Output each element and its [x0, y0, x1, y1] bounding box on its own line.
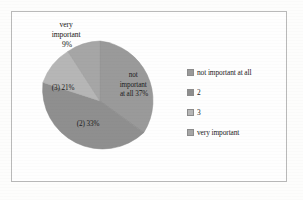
legend-item-very-important[interactable]: very important — [187, 124, 287, 140]
legend-label: 3 — [197, 108, 201, 117]
screenshot-root: not important at all 37% (2) 33% (3) 21%… — [0, 0, 303, 200]
chart-legend: not important at all 2 3 very important — [187, 64, 287, 144]
slice-label-2: (2) 33% — [77, 120, 100, 128]
chart-frame: not important at all 37% (2) 33% (3) 21%… — [11, 11, 287, 182]
legend-item-3[interactable]: 3 — [187, 104, 287, 120]
slice-label-3: (3) 21% — [52, 84, 75, 92]
slice-label-very-important: very important 9% — [52, 20, 82, 49]
legend-label: very important — [197, 128, 239, 137]
legend-item-not-important-at-all[interactable]: not important at all — [187, 64, 287, 80]
legend-swatch-icon — [187, 129, 194, 136]
legend-swatch-icon — [187, 109, 194, 116]
legend-label: not important at all — [197, 68, 251, 77]
legend-swatch-icon — [187, 69, 194, 76]
legend-swatch-icon — [187, 89, 194, 96]
legend-item-2[interactable]: 2 — [187, 84, 287, 100]
legend-label: 2 — [197, 88, 201, 97]
pie-chart: not important at all 37% (2) 33% (3) 21%… — [12, 12, 288, 183]
